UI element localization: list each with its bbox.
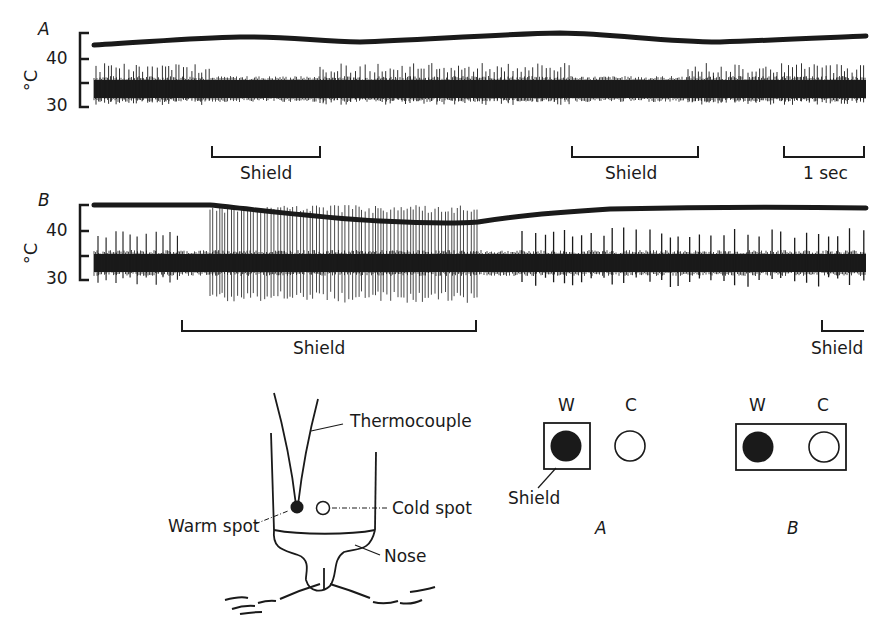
config-a-label: A [595,520,607,537]
panel-a-shield-label-1: Shield [240,165,292,182]
time-scale-label: 1 sec [803,165,848,182]
panel-b-shield-bar-2 [822,320,864,331]
panel-b-tick-30: 30 [46,270,68,287]
warm-spot-icon [743,432,774,463]
panel-a-shield-label-2: Shield [605,165,657,182]
panel-b-y-axis [80,205,89,280]
warm-spot-icon [291,501,304,514]
panel-a-unit-label: °C [20,70,41,92]
cold-spot-icon [809,432,839,462]
skin-surface [225,584,435,614]
panel-a-label: A [38,21,50,38]
config-b-cold-label: C [817,397,829,414]
tube-right-wall [375,452,376,530]
thermocouple-label: Thermocouple [350,413,472,430]
panel-a-shield-bar-1 [212,146,320,157]
panel-a-shield-bar-2 [572,146,698,157]
panel-b-shield-bar-1 [182,320,476,331]
config-b-label: B [787,520,799,537]
panel-a-temperature-trace [94,33,866,45]
panel-b [80,205,866,331]
thermocouple-wire [274,393,296,505]
time-scale-bar [784,146,864,157]
panel-b-label: B [38,192,50,209]
panel-b-unit-label: °C [20,243,41,265]
cold-spot-icon [317,502,330,515]
tube-left-wall [271,433,274,530]
panel-a-y-axis [80,33,89,107]
cold-spot-icon [615,431,645,461]
shield-config-b [736,424,846,470]
warm-spot-icon [551,431,582,462]
config-a-cold-label: C [625,397,637,414]
config-b-warm-label: W [749,397,766,414]
panel-b-shield-label-2: Shield [811,340,863,357]
panel-a-tick-40: 40 [46,50,68,67]
panel-a [80,33,866,157]
nose-membrane [274,530,375,534]
panel-a-nerve-discharge-trace [94,63,866,105]
cold-spot-label: Cold spot [392,500,472,517]
shield-config-a [538,423,645,488]
config-a-shield-label: Shield [508,490,560,507]
warm-spot-label: Warm spot [168,518,260,535]
figure-canvas [0,0,888,634]
thermocouple-wire [298,399,318,505]
nose-label: Nose [384,548,426,565]
panel-b-tick-40: 40 [46,222,68,239]
config-a-warm-label: W [558,397,575,414]
panel-a-tick-30: 30 [46,97,68,114]
panel-b-shield-label-1: Shield [293,340,345,357]
